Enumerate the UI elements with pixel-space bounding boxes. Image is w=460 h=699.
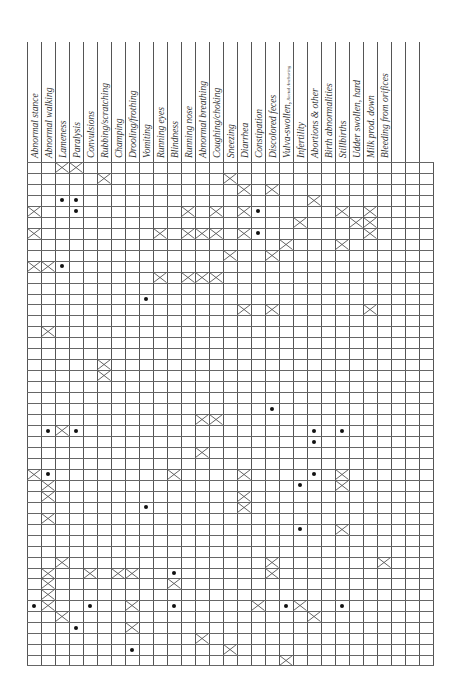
dot-mark-icon (74, 209, 78, 213)
cross-mark-icon (335, 524, 349, 535)
grid-row-line (27, 359, 434, 360)
grid-row-line (27, 611, 434, 612)
grid-row-line (27, 665, 434, 666)
cross-mark-icon (363, 206, 377, 217)
grid-row-line (27, 524, 434, 525)
cross-mark-icon (265, 304, 279, 315)
grid-row-line (27, 578, 434, 579)
cross-mark-icon (55, 162, 69, 173)
dot-mark-icon (32, 604, 36, 608)
cross-mark-icon (181, 206, 195, 217)
dot-mark-icon (270, 407, 274, 411)
grid-row-line (27, 480, 434, 481)
cross-mark-icon (363, 304, 377, 315)
column-note: Rectal Anchoring (286, 66, 291, 102)
cross-mark-icon (223, 644, 237, 655)
cross-mark-icon (41, 491, 55, 502)
cross-mark-icon (153, 228, 167, 239)
grid-row-line (27, 195, 434, 196)
cross-mark-icon (55, 425, 69, 436)
column-header: Convulsions (83, 42, 97, 162)
column-header: Abnormal walking (41, 42, 55, 162)
grid-row-line (27, 535, 434, 536)
cross-mark-icon (223, 173, 237, 184)
grid-row-line (27, 458, 434, 459)
column-header: Milk prod. down (363, 42, 377, 162)
cross-mark-icon (125, 600, 139, 611)
cross-mark-icon (293, 217, 307, 228)
cross-mark-icon (195, 633, 209, 644)
cross-mark-icon (97, 173, 111, 184)
column-header: Vulva-swollen, Rectal Anchoring (279, 42, 293, 162)
cross-mark-icon (41, 326, 55, 337)
dot-mark-icon (74, 626, 78, 630)
cross-mark-icon (293, 600, 307, 611)
cross-mark-icon (41, 578, 55, 589)
column-header: Constipation (251, 42, 265, 162)
cross-mark-icon (167, 469, 181, 480)
cross-mark-icon (237, 491, 251, 502)
cross-mark-icon (307, 195, 321, 206)
dot-mark-icon (46, 429, 50, 433)
column-header (391, 42, 405, 162)
cross-mark-icon (41, 568, 55, 579)
cross-mark-icon (125, 622, 139, 633)
grid-row-line (27, 436, 434, 437)
column-header: Abnormal breathing (195, 42, 209, 162)
dot-mark-icon (60, 264, 64, 268)
cross-mark-icon (181, 228, 195, 239)
cross-mark-icon (125, 568, 139, 579)
column-header: Sneezing (223, 42, 237, 162)
cross-mark-icon (27, 228, 41, 239)
column-header: Drooling/frothing (125, 42, 139, 162)
cross-mark-icon (237, 304, 251, 315)
grid-row-line (27, 447, 434, 448)
grid-row-line (27, 315, 434, 316)
grid-row-line (27, 184, 434, 185)
grid-row-line (27, 425, 434, 426)
cross-mark-icon (377, 557, 391, 568)
grid-row-line (27, 272, 434, 273)
cross-mark-icon (237, 228, 251, 239)
cross-mark-icon (335, 206, 349, 217)
dot-mark-icon (144, 505, 148, 509)
symptom-grid (27, 162, 434, 666)
dot-mark-icon (284, 604, 288, 608)
dot-mark-icon (312, 429, 316, 433)
cross-mark-icon (363, 217, 377, 228)
cross-mark-icon (237, 184, 251, 195)
cross-mark-icon (97, 370, 111, 381)
cross-mark-icon (237, 502, 251, 513)
dot-mark-icon (298, 483, 302, 487)
grid-row-line (27, 239, 434, 240)
cross-mark-icon (167, 578, 181, 589)
cross-mark-icon (27, 261, 41, 272)
dot-mark-icon (340, 604, 344, 608)
cross-mark-icon (209, 228, 223, 239)
dot-mark-icon (60, 198, 64, 202)
cross-mark-icon (209, 272, 223, 283)
cross-mark-icon (111, 568, 125, 579)
grid-row-line (27, 513, 434, 514)
grid-row-line (27, 469, 434, 470)
grid-row-line (27, 162, 434, 163)
cross-mark-icon (41, 261, 55, 272)
dot-mark-icon (298, 527, 302, 531)
grid-row-line (27, 546, 434, 547)
cross-mark-icon (41, 480, 55, 491)
cross-mark-icon (153, 272, 167, 283)
grid-row-line (27, 348, 434, 349)
grid-row-line (27, 337, 434, 338)
column-header: Rubbing/scratching (97, 42, 111, 162)
cross-mark-icon (83, 568, 97, 579)
cross-mark-icon (181, 272, 195, 283)
dot-mark-icon (74, 429, 78, 433)
column-header: Abortions & other (307, 42, 321, 162)
cross-mark-icon (265, 184, 279, 195)
dot-mark-icon (144, 297, 148, 301)
cross-mark-icon (307, 611, 321, 622)
column-header (405, 42, 419, 162)
grid-row-line (27, 403, 434, 404)
column-header: Infertility (293, 42, 307, 162)
cross-mark-icon (251, 600, 265, 611)
